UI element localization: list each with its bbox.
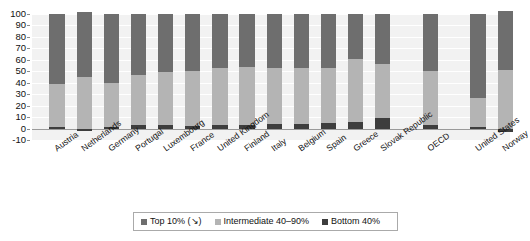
bar-segment-bottom-40 — [77, 129, 92, 131]
bar-segment-bottom-40 — [348, 122, 363, 129]
y-axis-tick-mark — [27, 48, 30, 49]
y-axis-tick-mark — [27, 60, 30, 61]
y-axis-tick-label: 0 — [21, 124, 26, 134]
bar-segment-top-10 — [77, 12, 92, 77]
bar-segment-bottom-40 — [267, 124, 282, 129]
bar-segment-bottom-40 — [212, 125, 227, 128]
bar-segment-top-10 — [470, 14, 485, 98]
bar-group[interactable] — [294, 14, 309, 140]
legend-label: Intermediate 40–90% — [224, 217, 310, 226]
bar-segment-top-10 — [131, 14, 146, 75]
y-axis-tick-mark — [27, 71, 30, 72]
bar-segment-top-10 — [104, 14, 119, 83]
y-axis-tick-mark — [27, 14, 30, 15]
chart-legend: Top 10% (↘)Intermediate 40–90%Bottom 40% — [133, 212, 398, 231]
y-axis-tick-label: 10 — [15, 112, 26, 122]
bar-group[interactable] — [348, 14, 363, 140]
bar-group[interactable] — [321, 14, 336, 140]
chart-title — [0, 0, 524, 7]
y-axis-tick-mark — [27, 25, 30, 26]
bar-segment-top-10 — [423, 14, 438, 71]
y-axis-tick-mark — [27, 129, 30, 130]
bar-segment-top-10 — [294, 14, 309, 68]
bar-segment-top-10 — [267, 14, 282, 68]
y-axis-tick-label: 30 — [15, 89, 26, 99]
y-axis-tick-label: 50 — [15, 66, 26, 76]
bar-segment-top-10 — [498, 11, 513, 71]
bar-group[interactable] — [77, 14, 92, 140]
y-axis: -100102030405060708090100 — [0, 0, 30, 241]
legend-swatch-icon — [215, 219, 221, 225]
bar-segment-top-10 — [212, 14, 227, 68]
legend-swatch-icon — [141, 219, 147, 225]
y-axis-tick-mark — [27, 83, 30, 84]
y-axis-tick-label: 90 — [15, 20, 26, 30]
bar-segment-intermediate — [348, 59, 363, 122]
bar-segment-intermediate — [375, 64, 390, 118]
bar-segment-top-10 — [348, 14, 363, 59]
legend-label: Bottom 40% — [331, 217, 380, 226]
y-axis-tick-mark — [27, 94, 30, 95]
bar-group[interactable] — [212, 14, 227, 140]
y-axis-tick-label: 20 — [15, 101, 26, 111]
y-axis-tick-label: 40 — [15, 78, 26, 88]
plot-area — [32, 14, 510, 140]
bar-segment-intermediate — [239, 67, 254, 125]
legend-label: Top 10% (↘) — [150, 217, 202, 226]
bar-segment-top-10 — [239, 14, 254, 67]
bar-segment-top-10 — [49, 14, 64, 84]
bar-group[interactable] — [470, 14, 485, 140]
bar-segment-intermediate — [131, 75, 146, 125]
bar-segment-bottom-40 — [375, 118, 390, 128]
y-axis-tick-mark — [27, 106, 30, 107]
bar-segment-intermediate — [49, 84, 64, 128]
bar-group[interactable] — [131, 14, 146, 140]
bar-segment-bottom-40 — [49, 127, 64, 128]
bar-segment-intermediate — [77, 77, 92, 129]
bar-segment-intermediate — [470, 98, 485, 128]
legend-item[interactable]: Intermediate 40–90% — [215, 217, 310, 226]
legend-item[interactable]: Bottom 40% — [322, 217, 380, 226]
y-axis-tick-label: 60 — [15, 55, 26, 65]
bar-segment-bottom-40 — [294, 124, 309, 129]
x-axis-labels: AustriaNetherlandsGermanyPortugalLuxembo… — [0, 140, 524, 202]
y-axis-tick-label: 100 — [10, 9, 26, 19]
y-axis-tick-mark — [27, 117, 30, 118]
bar-segment-bottom-40 — [321, 123, 336, 129]
y-axis-tick-label: 70 — [15, 43, 26, 53]
bar-group[interactable] — [267, 14, 282, 140]
y-axis-tick-mark — [27, 37, 30, 38]
bar-segment-intermediate — [212, 68, 227, 125]
bar-segment-top-10 — [375, 14, 390, 64]
bar-segment-top-10 — [321, 14, 336, 68]
bar-group[interactable] — [158, 14, 173, 140]
bar-segment-intermediate — [294, 68, 309, 124]
x-axis-tick-label: Italy — [270, 137, 288, 154]
bar-group[interactable] — [49, 14, 64, 140]
bar-segment-intermediate — [321, 68, 336, 123]
y-axis-tick-label: 80 — [15, 32, 26, 42]
bar-segment-bottom-40 — [423, 125, 438, 128]
bar-segment-top-10 — [158, 14, 173, 72]
bar-segment-bottom-40 — [470, 127, 485, 128]
legend-item[interactable]: Top 10% (↘) — [141, 217, 202, 226]
bar-group[interactable] — [375, 14, 390, 140]
bar-segment-intermediate — [158, 72, 173, 125]
bar-segment-top-10 — [185, 14, 200, 71]
legend-swatch-icon — [322, 219, 328, 225]
